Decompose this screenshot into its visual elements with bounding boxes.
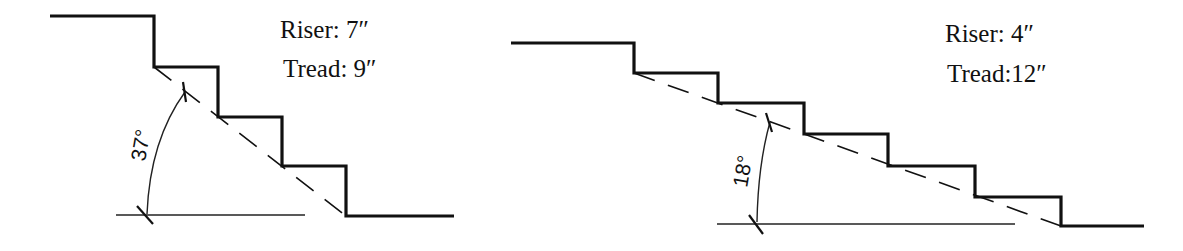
right-riser-label: Riser: 4″ [945,20,1034,47]
left-riser-label: Riser: 7″ [280,16,369,43]
right-angle-arc [757,122,770,222]
right-angle-label: 18° [728,153,756,188]
right-stair-diagram: 18° Riser: 4″ Tread:12″ [511,20,1144,234]
right-pitch-line [634,73,1061,226]
left-stair-profile [50,16,454,216]
right-tread-label: Tread:12″ [947,60,1047,87]
left-angle-label: 37° [126,127,154,162]
stair-diagrams: 37° Riser: 7″ Tread: 9″ 18° Riser: 4″ Tr… [0,0,1183,251]
left-arc-tick-top [183,82,186,102]
left-tread-label: Tread: 9″ [283,55,377,82]
right-stair-profile [511,43,1144,226]
left-pitch-line [154,67,346,216]
left-stair-diagram: 37° Riser: 7″ Tread: 9″ [50,16,454,224]
left-angle-arc [147,92,185,214]
